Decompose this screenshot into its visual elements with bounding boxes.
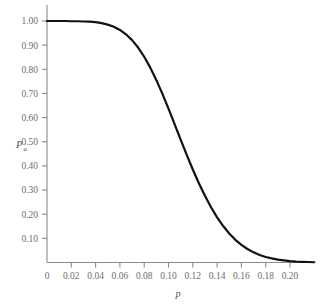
y-tick-label: 0.40 (21, 161, 38, 171)
x-tick-label: 0.12 (184, 271, 201, 281)
y-tick-label: 0.80 (21, 65, 38, 75)
chart-canvas: 0.100.200.300.400.500.600.700.800.901.00… (0, 0, 320, 308)
y-tick-label: 0.70 (21, 89, 38, 99)
y-tick-label: 0.10 (21, 234, 38, 244)
x-tick-label: 0.16 (233, 271, 250, 281)
x-axis-title: p (174, 288, 180, 299)
y-tick-label: 0.30 (21, 185, 38, 195)
y-tick-label: 1.00 (21, 16, 38, 26)
x-tick-label: 0.20 (282, 271, 299, 281)
x-tick-label: 0.10 (160, 271, 177, 281)
x-tick-label: 0.14 (209, 271, 226, 281)
oc-curve-line (47, 21, 314, 262)
x-tick-label: 0.06 (112, 271, 129, 281)
y-axis-ticks (42, 21, 47, 238)
oc-curve-chart: 0.100.200.300.400.500.600.700.800.901.00… (0, 0, 320, 308)
x-axis-ticks (71, 263, 290, 268)
y-tick-label: 0.20 (21, 210, 38, 220)
y-axis-tick-labels: 0.100.200.300.400.500.600.700.800.901.00 (21, 16, 38, 243)
y-axis-title: P (15, 139, 23, 150)
x-tick-label: 0.02 (63, 271, 80, 281)
y-tick-label: 0.90 (21, 41, 38, 51)
y-axis-title-subscript: a (24, 145, 28, 153)
x-tick-label: 0 (45, 271, 50, 281)
y-tick-label: 0.60 (21, 113, 38, 123)
x-axis-tick-labels: 00.020.040.060.080.100.120.140.160.180.2… (45, 271, 299, 281)
x-tick-label: 0.08 (136, 271, 153, 281)
x-tick-label: 0.18 (257, 271, 274, 281)
x-tick-label: 0.04 (87, 271, 104, 281)
